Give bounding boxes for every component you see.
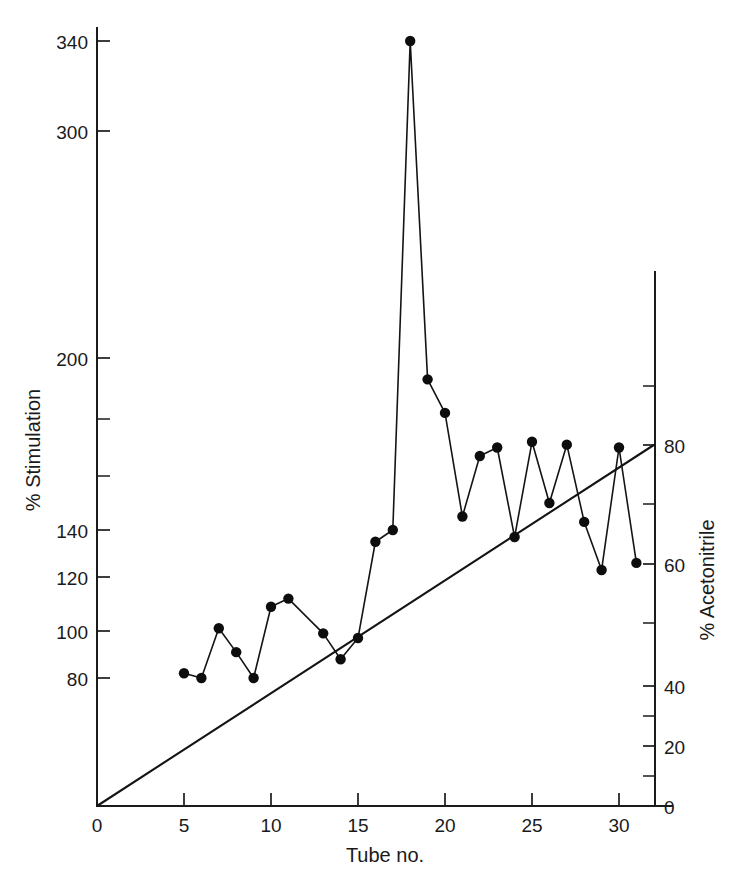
data-point bbox=[527, 437, 537, 447]
x-tick-label-5: 5 bbox=[179, 815, 190, 836]
x-axis-tick-labels: 0 5 10 15 20 25 30 bbox=[92, 815, 630, 836]
x-tick-label-30: 30 bbox=[608, 815, 629, 836]
data-point bbox=[457, 511, 467, 521]
data-point bbox=[405, 36, 415, 46]
y-axis-right-title: % Acetonitrile bbox=[696, 519, 718, 640]
data-point bbox=[544, 498, 554, 508]
x-axis-ticks bbox=[97, 793, 619, 806]
data-point bbox=[492, 442, 502, 452]
data-point bbox=[614, 442, 624, 452]
x-axis-title: Tube no. bbox=[346, 844, 424, 866]
data-point bbox=[335, 654, 345, 664]
data-point bbox=[283, 593, 293, 603]
left-tick-label-100: 100 bbox=[56, 622, 88, 643]
data-point bbox=[579, 517, 589, 527]
right-tick-label-80: 80 bbox=[664, 436, 685, 457]
right-tick-label-20: 20 bbox=[664, 737, 685, 758]
data-point bbox=[353, 633, 363, 643]
data-point bbox=[266, 602, 276, 612]
right-axis-tick-labels: 80 60 40 20 0 bbox=[664, 436, 685, 818]
data-point bbox=[196, 673, 206, 683]
left-tick-label-80: 80 bbox=[67, 669, 88, 690]
data-point bbox=[440, 408, 450, 418]
stimulation-series bbox=[179, 36, 642, 683]
data-point bbox=[388, 525, 398, 535]
data-point bbox=[214, 623, 224, 633]
x-tick-label-15: 15 bbox=[347, 815, 368, 836]
data-point bbox=[596, 565, 606, 575]
data-point bbox=[370, 537, 380, 547]
data-point bbox=[562, 439, 572, 449]
stimulation-polyline bbox=[184, 41, 636, 678]
x-tick-label-10: 10 bbox=[260, 815, 281, 836]
left-tick-label-340: 340 bbox=[56, 32, 88, 53]
left-tick-label-120: 120 bbox=[56, 568, 88, 589]
data-point bbox=[318, 628, 328, 638]
x-tick-label-0: 0 bbox=[92, 815, 103, 836]
acetonitrile-gradient-series bbox=[97, 445, 654, 806]
gradient-polyline bbox=[97, 445, 654, 806]
right-tick-label-0: 0 bbox=[664, 797, 675, 818]
left-tick-label-200: 200 bbox=[56, 349, 88, 370]
stimulation-markers bbox=[179, 36, 642, 683]
right-tick-label-40: 40 bbox=[664, 677, 685, 698]
chart-figure: 340 300 200 140 120 100 80 0 5 10 15 20 … bbox=[0, 0, 738, 875]
data-point bbox=[422, 374, 432, 384]
left-axis-ticks bbox=[97, 41, 110, 678]
x-tick-label-20: 20 bbox=[434, 815, 455, 836]
data-point bbox=[231, 647, 241, 657]
right-tick-label-60: 60 bbox=[664, 555, 685, 576]
data-point bbox=[509, 532, 519, 542]
axes-group bbox=[97, 28, 672, 806]
x-tick-label-25: 25 bbox=[521, 815, 542, 836]
left-tick-label-300: 300 bbox=[56, 122, 88, 143]
data-point bbox=[179, 668, 189, 678]
chart-canvas: 340 300 200 140 120 100 80 0 5 10 15 20 … bbox=[0, 0, 738, 875]
data-point bbox=[631, 558, 641, 568]
data-point bbox=[475, 451, 485, 461]
data-point bbox=[248, 673, 258, 683]
left-tick-label-140: 140 bbox=[56, 521, 88, 542]
y-axis-left-title: % Stimulation bbox=[22, 389, 44, 511]
left-axis-tick-labels: 340 300 200 140 120 100 80 bbox=[56, 32, 88, 690]
